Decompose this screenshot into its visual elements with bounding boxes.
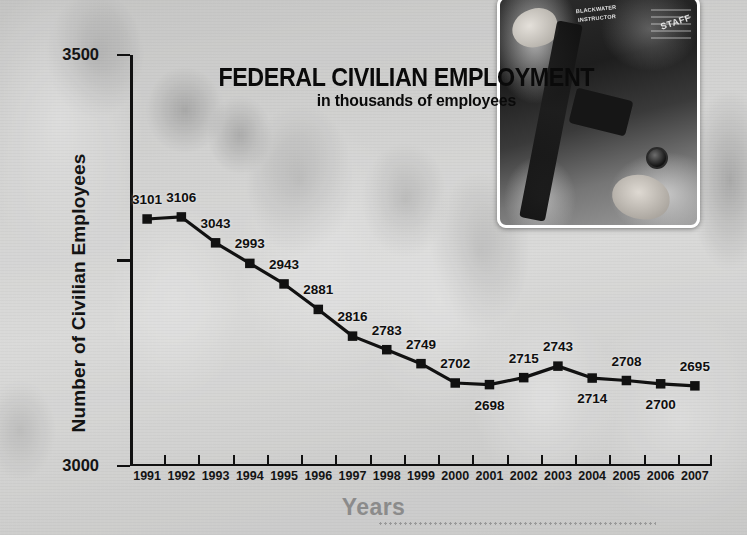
data-point-1992[interactable] — [177, 212, 187, 222]
data-label-1994: 2993 — [235, 236, 265, 251]
data-point-1999[interactable] — [416, 359, 426, 369]
data-point-1998[interactable] — [382, 345, 392, 355]
x-tick-label-1995: 1995 — [270, 469, 298, 483]
data-label-2005: 2708 — [611, 353, 641, 368]
x-tick-label-2000: 2000 — [441, 469, 469, 483]
data-label-1993: 3043 — [201, 215, 231, 230]
data-point-1995[interactable] — [279, 279, 289, 289]
data-label-2001: 2698 — [474, 397, 504, 412]
y-tick-2500: 2500 — [117, 465, 130, 468]
x-tick-label-2001: 2001 — [476, 469, 504, 483]
x-tick-label-2002: 2002 — [510, 469, 538, 483]
x-tick-label-2007: 2007 — [681, 469, 709, 483]
data-point-2007[interactable] — [690, 381, 700, 391]
shirt-badge-text: BLACKWATER INSTRUCTOR — [575, 3, 619, 33]
y-tick-3000: 3000 — [117, 259, 130, 262]
data-point-2000[interactable] — [450, 378, 460, 388]
y-tick-label-3000: 3000 — [62, 455, 99, 474]
x-axis-title: Years — [0, 494, 747, 521]
x-tick-label-2004: 2004 — [578, 469, 606, 483]
data-label-1992: 3106 — [166, 189, 196, 204]
series-line — [130, 55, 712, 466]
data-point-2004[interactable] — [587, 373, 597, 383]
x-tick-label-1992: 1992 — [167, 469, 195, 483]
x-tick-label-2006: 2006 — [647, 469, 675, 483]
data-point-1994[interactable] — [245, 259, 255, 269]
arabic-signage — [651, 5, 691, 39]
data-point-2001[interactable] — [485, 380, 495, 390]
data-label-2002: 2715 — [509, 350, 539, 365]
data-point-2005[interactable] — [622, 376, 632, 386]
data-point-1996[interactable] — [314, 305, 324, 315]
data-label-1998: 2783 — [372, 322, 402, 337]
data-point-1991[interactable] — [142, 214, 152, 224]
data-point-1997[interactable] — [348, 331, 358, 341]
y-axis-title: Number of Civilian Employees — [62, 128, 96, 458]
data-label-2004: 2714 — [577, 391, 607, 406]
data-label-2007: 2695 — [680, 358, 710, 373]
data-point-1993[interactable] — [211, 238, 221, 248]
plot-area: 250030003500 199119921993199419951996199… — [130, 55, 712, 466]
dotted-divider — [378, 522, 656, 525]
x-tick-label-1999: 1999 — [407, 469, 435, 483]
data-label-1996: 2881 — [303, 282, 333, 297]
y-axis-title-text: Number of Civilian Employees — [68, 153, 90, 432]
x-tick-label-1996: 1996 — [304, 469, 332, 483]
y-tick-label-3500: 3500 — [62, 44, 99, 63]
x-tick-label-1997: 1997 — [339, 469, 367, 483]
data-label-1997: 2816 — [337, 309, 367, 324]
data-label-1991: 3101 — [132, 191, 162, 206]
x-tick-label-1994: 1994 — [236, 469, 264, 483]
data-point-2003[interactable] — [553, 361, 563, 371]
data-label-2003: 2743 — [543, 339, 573, 354]
x-tick-label-2005: 2005 — [613, 469, 641, 483]
x-tick-label-1991: 1991 — [133, 469, 161, 483]
x-tick-label-1998: 1998 — [373, 469, 401, 483]
x-tick-label-1993: 1993 — [202, 469, 230, 483]
y-tick-3500: 3500 — [117, 54, 130, 57]
data-label-1995: 2943 — [269, 256, 299, 271]
data-label-2000: 2702 — [440, 355, 470, 370]
infographic-poster: BLACKWATER INSTRUCTOR STAFF FEDERAL CIVI… — [0, 0, 747, 535]
x-tick-label-2003: 2003 — [544, 469, 572, 483]
data-point-2006[interactable] — [656, 379, 666, 389]
data-point-2002[interactable] — [519, 373, 529, 383]
data-label-1999: 2749 — [406, 336, 436, 351]
data-label-2006: 2700 — [646, 396, 676, 411]
